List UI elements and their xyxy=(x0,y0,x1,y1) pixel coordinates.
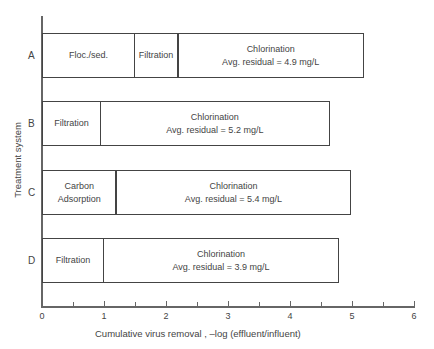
bar-segment: Chlorination Avg. residual = 4.9 mg/L xyxy=(178,33,364,78)
segment-label: Chlorination Avg. residual = 3.9 mg/L xyxy=(172,248,269,274)
x-tick xyxy=(352,301,353,307)
x-tick xyxy=(414,301,415,307)
segment-label: Floc./sed. xyxy=(69,49,108,62)
x-axis-title: Cumulative virus removal , –log (effluen… xyxy=(95,328,301,339)
x-tick-label: 5 xyxy=(349,311,354,321)
x-tick xyxy=(290,301,291,307)
segment-label: Chlorination Avg. residual = 5.2 mg/L xyxy=(166,111,263,137)
bar-b: FiltrationChlorination Avg. residual = 5… xyxy=(0,101,434,146)
x-minor-tick xyxy=(259,302,260,307)
x-tick xyxy=(42,301,43,307)
bar-segment: Chlorination Avg. residual = 5.4 mg/L xyxy=(116,170,352,215)
segment-label: Carbon Adsorption xyxy=(58,180,101,206)
segment-label: Filtration xyxy=(139,49,174,62)
x-tick-label: 0 xyxy=(39,311,44,321)
segment-label: Chlorination Avg. residual = 5.4 mg/L xyxy=(185,180,282,206)
bar-segment: Filtration xyxy=(42,101,101,146)
x-tick xyxy=(104,301,105,307)
x-minor-tick xyxy=(383,302,384,307)
bar-segment: Carbon Adsorption xyxy=(42,170,116,215)
x-minor-tick xyxy=(321,302,322,307)
x-minor-tick xyxy=(135,302,136,307)
bar-segment: Filtration xyxy=(42,238,104,283)
x-tick-label: 1 xyxy=(101,311,106,321)
x-minor-tick xyxy=(197,302,198,307)
bar-a: Floc./sed.FiltrationChlorination Avg. re… xyxy=(0,33,434,78)
bar-segment: Filtration xyxy=(134,33,177,78)
x-tick-label: 4 xyxy=(287,311,292,321)
x-tick xyxy=(228,301,229,307)
x-tick-label: 2 xyxy=(163,311,168,321)
x-tick-label: 6 xyxy=(411,311,416,321)
segment-label: Chlorination Avg. residual = 4.9 mg/L xyxy=(222,43,319,69)
bar-segment: Floc./sed. xyxy=(42,33,135,78)
bar-c: Carbon AdsorptionChlorination Avg. resid… xyxy=(0,170,434,215)
x-tick-label: 3 xyxy=(225,311,230,321)
segment-label: Filtration xyxy=(56,254,91,267)
x-minor-tick xyxy=(73,302,74,307)
bar-d: FiltrationChlorination Avg. residual = 3… xyxy=(0,238,434,283)
y-axis-title: Treatment system xyxy=(12,122,23,198)
x-tick xyxy=(166,301,167,307)
bar-segment: Chlorination Avg. residual = 3.9 mg/L xyxy=(103,238,339,283)
segment-label: Filtration xyxy=(54,117,89,130)
stacked-bar-chart: 0123456 AFloc./sed.FiltrationChlorinatio… xyxy=(0,0,434,349)
bar-segment: Chlorination Avg. residual = 5.2 mg/L xyxy=(100,101,329,146)
